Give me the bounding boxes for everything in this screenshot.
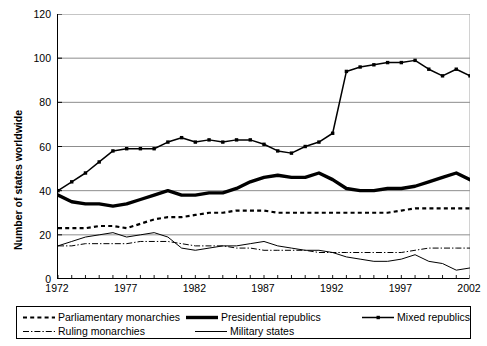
legend-label: Presidential republics bbox=[221, 311, 321, 323]
series-marker bbox=[372, 63, 375, 66]
legend-swatch-thick-solid bbox=[185, 312, 219, 323]
series-line-presidential-republics bbox=[58, 173, 470, 206]
series-marker bbox=[427, 68, 430, 71]
x-axis-tick-label: 1982 bbox=[174, 282, 214, 294]
series-marker bbox=[207, 138, 210, 141]
series-marker bbox=[111, 149, 114, 152]
y-axis-tick-label: 20 bbox=[17, 230, 51, 240]
x-axis-tick-label: 1987 bbox=[243, 282, 283, 294]
x-axis-tick-label: 1997 bbox=[380, 282, 420, 294]
series-marker bbox=[276, 149, 279, 152]
series-marker bbox=[98, 160, 101, 163]
series-marker bbox=[58, 189, 60, 192]
legend-label: Military states bbox=[230, 325, 294, 337]
legend-row-2: Ruling monarchiesMilitary states bbox=[22, 324, 470, 338]
x-axis-tick-label: 2002 bbox=[449, 282, 487, 294]
legend-swatch-dashed bbox=[22, 312, 56, 323]
legend-item-ruling-monarchies[interactable]: Ruling monarchies bbox=[22, 325, 194, 337]
legend-swatch-solid-markers bbox=[361, 312, 395, 323]
x-axis-tick-label: 1972 bbox=[37, 282, 77, 294]
series-marker bbox=[290, 151, 293, 154]
series-marker bbox=[386, 61, 389, 64]
legend-swatch-dash-dot bbox=[22, 326, 56, 337]
series-marker bbox=[221, 140, 224, 143]
series-marker bbox=[125, 147, 128, 150]
series-marker bbox=[84, 171, 87, 174]
series-marker bbox=[262, 143, 265, 146]
series-marker bbox=[166, 140, 169, 143]
series-marker bbox=[304, 145, 307, 148]
legend-item-parliamentary-monarchies[interactable]: Parliamentary monarchies bbox=[22, 311, 185, 323]
series-marker bbox=[249, 138, 252, 141]
y-axis-tick-label: 60 bbox=[17, 142, 51, 152]
y-axis-tick-label: 40 bbox=[17, 186, 51, 196]
chart-container: Number of states worldwide 0204060801001… bbox=[0, 0, 487, 346]
y-axis-tick-label: 100 bbox=[17, 53, 51, 63]
legend-row-1: Parliamentary monarchiesPresidential rep… bbox=[22, 310, 470, 324]
x-axis-tick-label: 1992 bbox=[312, 282, 352, 294]
series-marker bbox=[317, 140, 320, 143]
series-marker bbox=[70, 180, 73, 183]
series-marker bbox=[441, 74, 444, 77]
x-axis-tick-label: 1977 bbox=[106, 282, 146, 294]
plot-area bbox=[57, 14, 469, 279]
chart-legend: Parliamentary monarchiesPresidential rep… bbox=[16, 306, 471, 339]
series-marker bbox=[468, 74, 470, 77]
series-line-ruling-monarchies bbox=[58, 241, 470, 252]
legend-item-mixed-republics[interactable]: Mixed republics bbox=[361, 311, 470, 323]
y-axis-tick-label: 80 bbox=[17, 97, 51, 107]
legend-label: Parliamentary monarchies bbox=[58, 311, 180, 323]
series-marker bbox=[194, 140, 197, 143]
series-marker bbox=[413, 59, 416, 62]
y-axis-tick-label: 120 bbox=[17, 9, 51, 19]
plot-svg bbox=[58, 14, 470, 279]
legend-swatch-thin-solid bbox=[194, 326, 228, 337]
legend-label: Ruling monarchies bbox=[58, 325, 145, 337]
series-line-mixed-republics bbox=[58, 60, 470, 190]
series-line-military-states bbox=[58, 233, 470, 271]
legend-item-military-states[interactable]: Military states bbox=[194, 325, 294, 337]
legend-item-presidential-republics[interactable]: Presidential republics bbox=[185, 311, 361, 323]
series-marker bbox=[235, 138, 238, 141]
y-axis-title: Number of states worldwide bbox=[12, 90, 24, 270]
series-marker bbox=[152, 147, 155, 150]
series-marker bbox=[400, 61, 403, 64]
series-marker bbox=[455, 68, 458, 71]
series-marker bbox=[331, 132, 334, 135]
series-marker bbox=[345, 70, 348, 73]
series-marker bbox=[358, 65, 361, 68]
series-marker bbox=[180, 136, 183, 139]
series-line-parliamentary-monarchies bbox=[58, 208, 470, 228]
series-marker bbox=[139, 147, 142, 150]
legend-label: Mixed republics bbox=[397, 311, 470, 323]
